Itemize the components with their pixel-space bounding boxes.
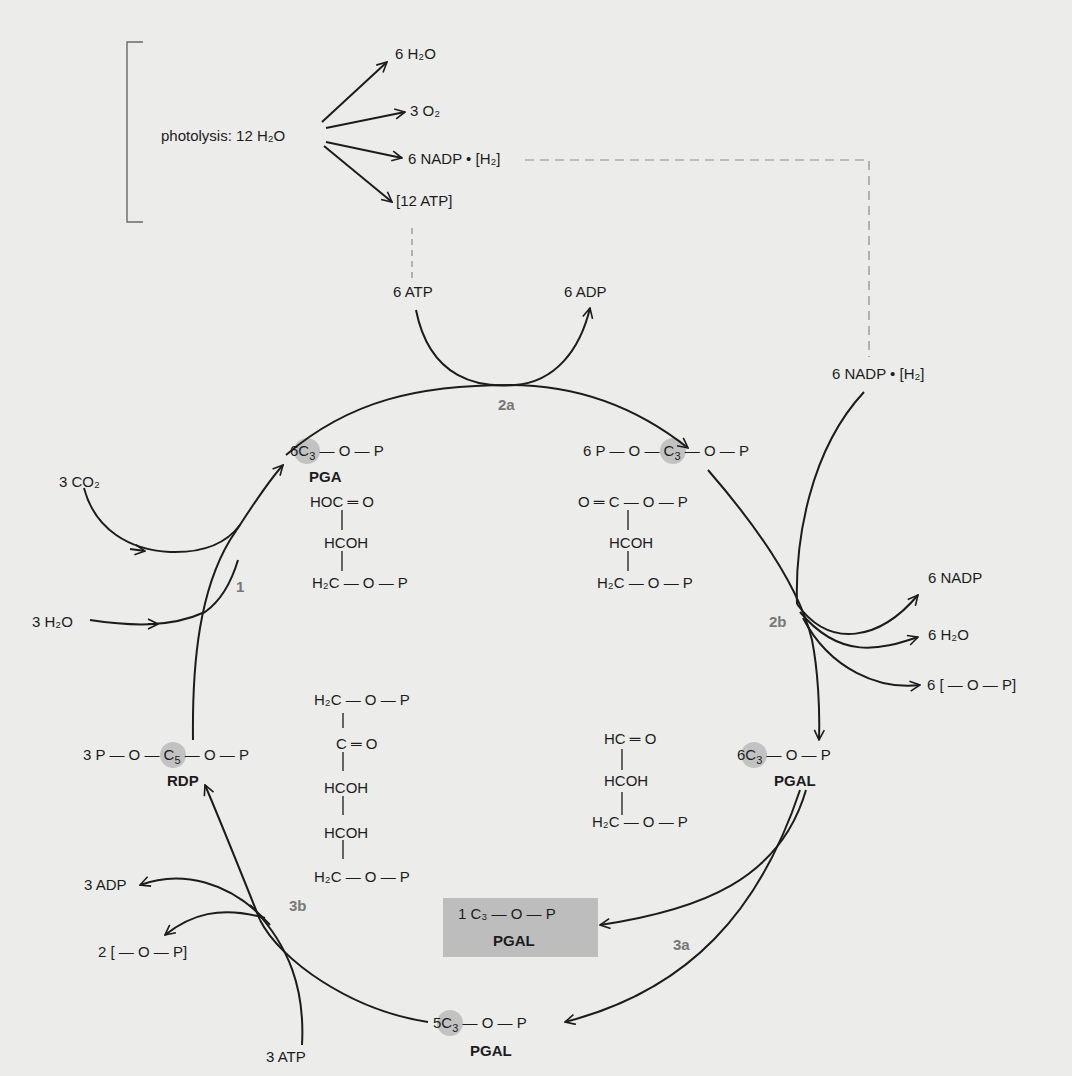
- photolysis-reactant: 12 H₂O: [236, 127, 285, 144]
- adp-output-3b: 3 ADP: [84, 876, 127, 894]
- pgal-product-name: PGAL: [493, 932, 535, 950]
- carbon-dot-icon: C3: [441, 1014, 458, 1037]
- step-label-1: 1: [236, 578, 244, 596]
- photolysis-product-oxygen: 3 O₂: [410, 102, 440, 120]
- rdp-structure-line-5: H₂C — O — P: [314, 868, 410, 886]
- photolysis-bracket: [127, 42, 143, 222]
- phosphate-output-3b: 2 [ — O — P]: [98, 943, 187, 961]
- step-label-3b: 3b: [289, 897, 307, 915]
- photolysis-product-atp: [12 ATP]: [396, 192, 452, 210]
- nadp-output: 6 NADP: [928, 569, 982, 587]
- step-label-2b: 2b: [769, 613, 787, 631]
- diphosphoglycerate-structure-line-2: HCOH: [609, 534, 653, 552]
- pgal6-name: PGAL: [774, 772, 816, 790]
- pgal5-formula: 5C3 — O — P: [433, 1014, 527, 1037]
- carbon-dot-icon: C3: [745, 746, 762, 769]
- step-label-3a: 3a: [673, 936, 690, 954]
- carbon-dot-icon: C5: [164, 746, 181, 769]
- diphosphoglycerate-formula: 6 P — O — C3 — O — P: [583, 442, 749, 465]
- rdp-formula: 3 P — O — C5 — O — P: [83, 746, 249, 769]
- pga-formula: 6C3 — O — P: [290, 442, 384, 465]
- photolysis-product-water: 6 H₂O: [395, 45, 436, 63]
- h2o-input: 3 H₂O: [32, 613, 73, 631]
- pgal-structure-line-2: HCOH: [604, 772, 648, 790]
- adp-output-2a: 6 ADP: [564, 283, 607, 301]
- pgal-structure-line-1: HC ═ O: [604, 730, 656, 748]
- water-output-2b: 6 H₂O: [928, 626, 969, 644]
- rdp-structure-line-4: HCOH: [324, 824, 368, 842]
- photolysis-product-nadph: 6 NADP • [H₂]: [408, 150, 501, 168]
- diphosphoglycerate-structure-line-1: O ═ C — O — P: [578, 493, 688, 511]
- photolysis-label: photolysis: 12 H₂O: [161, 127, 285, 145]
- phosphate-output-2b: 6 [ — O — P]: [927, 676, 1016, 694]
- atp-input-3b: 3 ATP: [266, 1048, 306, 1066]
- nadph-input-2b: 6 NADP • [H₂]: [832, 365, 925, 383]
- rdp-structure-line-2: C ═ O: [336, 735, 377, 753]
- pgal-product-formula: 1 C₃ — O — P: [458, 905, 556, 923]
- rdp-structure-line-1: H₂C — O — P: [314, 691, 410, 709]
- pgal6-formula: 6C3 — O — P: [737, 746, 831, 769]
- rdp-name: RDP: [167, 772, 199, 790]
- pga-name: PGA: [309, 468, 342, 486]
- carbon-dot-icon: C3: [298, 442, 315, 465]
- step-label-2a: 2a: [498, 396, 515, 414]
- carbon-dot-icon: C3: [664, 442, 681, 465]
- calvin-cycle-diagram: photolysis: 12 H₂O 6 H₂O 3 O₂ 6 NADP • […: [0, 0, 1072, 1076]
- pgal5-name: PGAL: [470, 1042, 512, 1060]
- diphosphoglycerate-structure-line-3: H₂C — O — P: [597, 574, 693, 592]
- pga-structure-line-2: HCOH: [324, 534, 368, 552]
- pga-structure-line-1: HOC ═ O: [310, 493, 374, 511]
- rdp-structure-line-3: HCOH: [324, 779, 368, 797]
- pga-structure-line-3: H₂C — O — P: [312, 574, 408, 592]
- pgal-structure-line-3: H₂C — O — P: [592, 813, 688, 831]
- atp-input-2a: 6 ATP: [393, 283, 433, 301]
- co2-input: 3 CO₂: [59, 473, 100, 491]
